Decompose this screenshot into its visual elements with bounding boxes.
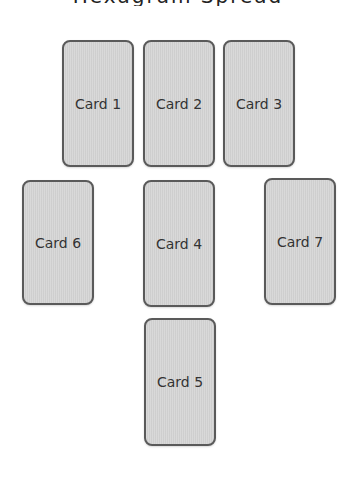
card-label: Card 5 — [157, 374, 203, 390]
card-label: Card 1 — [75, 96, 121, 112]
card-label: Card 7 — [277, 234, 323, 250]
card-7[interactable]: Card 7 — [264, 178, 336, 305]
card-label: Card 6 — [35, 235, 81, 251]
page-title: Hexagram Spread — [0, 0, 356, 6]
card-1[interactable]: Card 1 — [62, 40, 134, 167]
card-2[interactable]: Card 2 — [143, 40, 215, 167]
card-4[interactable]: Card 4 — [143, 180, 215, 307]
card-3[interactable]: Card 3 — [223, 40, 295, 167]
card-label: Card 4 — [156, 236, 202, 252]
card-6[interactable]: Card 6 — [22, 180, 94, 305]
card-label: Card 2 — [156, 96, 202, 112]
title-clip: Hexagram Spread — [0, 0, 356, 6]
card-5[interactable]: Card 5 — [144, 318, 216, 446]
card-label: Card 3 — [236, 96, 282, 112]
